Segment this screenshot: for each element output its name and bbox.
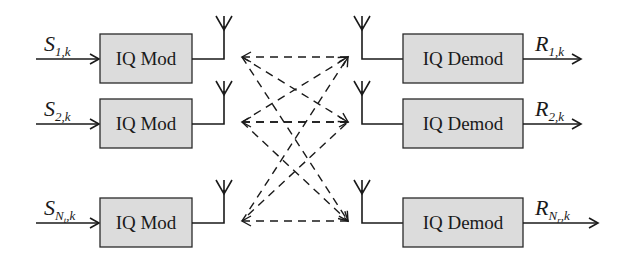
channel-links xyxy=(242,57,348,221)
rx-feed-1 xyxy=(362,26,403,59)
rx-feed-nr xyxy=(362,190,403,223)
input-symbol-nt: SNt,k xyxy=(44,195,75,225)
output-symbol-nr: RNr,k xyxy=(534,195,570,225)
rx-feed-2 xyxy=(362,91,403,124)
tx-feed-2 xyxy=(192,91,224,124)
transmitter-1: S1,k IQ Mod xyxy=(36,16,232,83)
receiver-1: IQ Demod R1,k xyxy=(354,16,581,83)
receiver-nr: IQ Demod RNr,k xyxy=(354,180,598,247)
input-symbol-2: S2,k xyxy=(44,96,71,124)
input-symbol-1: S1,k xyxy=(44,31,71,59)
tx-feed-nt xyxy=(192,190,224,223)
tx-antenna-icon-1 xyxy=(216,16,232,30)
output-symbol-1: R1,k xyxy=(534,31,564,59)
tx-feed-1 xyxy=(192,26,224,59)
tx-antenna-icon-nt xyxy=(216,180,232,194)
iq-mod-label-1: IQ Mod xyxy=(116,48,177,69)
iq-mod-label-2: IQ Mod xyxy=(116,113,177,134)
iq-demod-label-nr: IQ Demod xyxy=(423,212,504,233)
iq-mod-label-nt: IQ Mod xyxy=(116,212,177,233)
output-symbol-2: R2,k xyxy=(534,96,564,124)
mimo-diagram: S1,k IQ Mod S2,k IQ Mod SNt,k IQ Mod xyxy=(0,0,624,264)
transmitter-nt: SNt,k IQ Mod xyxy=(36,180,232,247)
receiver-2: IQ Demod R2,k xyxy=(354,81,581,148)
tx-antenna-icon-2 xyxy=(216,81,232,95)
transmitter-2: S2,k IQ Mod xyxy=(36,81,232,148)
iq-demod-label-2: IQ Demod xyxy=(423,113,504,134)
iq-demod-label-1: IQ Demod xyxy=(423,48,504,69)
link-t3-r2 xyxy=(248,122,348,215)
